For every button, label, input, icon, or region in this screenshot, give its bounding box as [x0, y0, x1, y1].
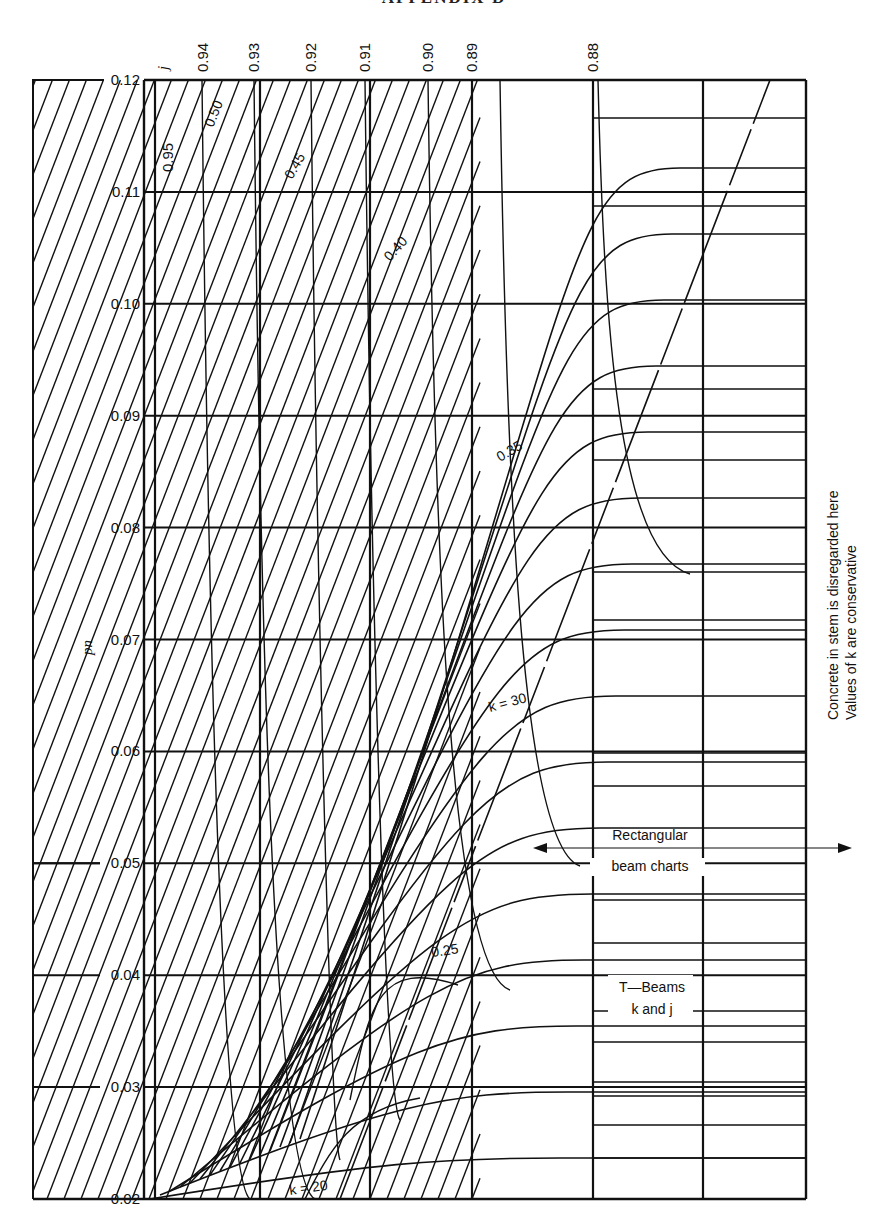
- k-equation-label: k = 20: [288, 1177, 329, 1198]
- rect-beam-label-2: beam charts: [611, 858, 688, 874]
- y-tick-0.03: 0.03: [111, 1078, 140, 1095]
- k-curve: [150, 1158, 806, 1199]
- rect-beam-label-1: Rectangular: [612, 827, 688, 843]
- j-tick-0.94: 0.94: [194, 43, 211, 72]
- y-tick-0.09: 0.09: [111, 407, 140, 424]
- j-tick-0.93: 0.93: [245, 43, 262, 72]
- k-curve-label-0.35: 0.35: [494, 437, 526, 465]
- y-tick-0.07: 0.07: [111, 631, 140, 648]
- k-curve: [270, 366, 806, 1151]
- k-curve-label-0.25: 0.25: [430, 940, 459, 960]
- j-tick-0.90: 0.90: [419, 43, 436, 72]
- y-tick-0.10: 0.10: [111, 295, 140, 312]
- j-curve: [350, 978, 458, 1100]
- k-equation-label: k = 30: [487, 689, 529, 714]
- arrow-right-icon: [838, 843, 852, 853]
- y-tick-0.12: 0.12: [111, 71, 140, 88]
- j-axis-label: j: [155, 66, 171, 72]
- tbeam-label-2: k and j: [631, 1001, 672, 1017]
- y-tick-0.11: 0.11: [112, 183, 140, 200]
- side-note-line-2: Values of k are conservative: [843, 545, 859, 720]
- y-tick-0.04: 0.04: [111, 966, 140, 983]
- tbeam-label-1: T—Beams: [619, 979, 685, 995]
- arrow-left-icon: [533, 843, 547, 853]
- k-curve: [170, 1026, 806, 1191]
- k-curve: [200, 828, 806, 1179]
- y-axis-label: pn: [79, 640, 95, 656]
- k-curve: [280, 300, 806, 1147]
- tbeam-nomograph-chart: 0.120.110.100.090.080.070.060.050.040.03…: [0, 0, 888, 1231]
- j-tick-0.88: 0.88: [584, 43, 601, 72]
- j-tick-0.91: 0.91: [356, 43, 373, 72]
- k-curve: [220, 696, 806, 1171]
- side-note-line-1: Concrete in stem is disregarded here: [825, 490, 841, 720]
- y-tick-0.05: 0.05: [111, 854, 140, 871]
- y-tick-0.06: 0.06: [111, 742, 140, 759]
- y-tick-0.02: 0.02: [111, 1190, 140, 1207]
- chart-grid: [33, 80, 852, 1199]
- k-curve: [290, 234, 806, 1143]
- y-tick-0.08: 0.08: [111, 519, 140, 536]
- j-tick-0.89: 0.89: [463, 43, 480, 72]
- k-curve: [180, 960, 806, 1187]
- k-curve: [260, 432, 806, 1155]
- j-tick-0.92: 0.92: [302, 43, 319, 72]
- k-curve-label-0.40: 0.40: [380, 233, 410, 264]
- j-inner-label: 0.95: [159, 143, 176, 172]
